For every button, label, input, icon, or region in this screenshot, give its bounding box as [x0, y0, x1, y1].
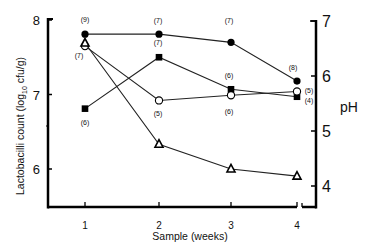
filled-circle-marker	[227, 39, 234, 46]
n-count-label: (6)	[225, 108, 234, 116]
y2-tick-label: 6	[322, 68, 331, 85]
open-triangle-marker	[227, 164, 235, 172]
filled-square-marker	[82, 105, 89, 112]
y-tick-label: 7	[33, 88, 40, 103]
n-count-label: (7)	[154, 39, 163, 47]
n-count-label: (6)	[81, 119, 90, 127]
n-count-label: (7)	[75, 52, 84, 60]
y-axis-label: Lactobacilli count (log10 cfu/g)	[14, 57, 28, 195]
plot-layer: 67812344567Lactobacilli count (log10 cfu…	[14, 13, 358, 242]
filled-circle-marker	[155, 31, 162, 38]
chart: 67812344567Lactobacilli count (log10 cfu…	[0, 0, 376, 251]
n-count-label: (6)	[225, 72, 234, 80]
open-circle-marker	[155, 97, 162, 104]
filled-circle-marker	[81, 31, 88, 38]
n-count-label: (4)	[305, 97, 314, 105]
open-circle-marker	[227, 92, 234, 99]
series-line-filled-square	[85, 57, 297, 108]
open-triangle-marker	[293, 172, 301, 180]
n-count-label: (5)	[154, 110, 163, 118]
x-tick-label: 1	[82, 220, 88, 231]
x-tick-label: 3	[228, 220, 234, 231]
y2-tick-label: 5	[322, 123, 331, 140]
x-tick-label: 4	[294, 220, 300, 231]
y2-tick-label: 4	[322, 178, 331, 195]
series-line-open-circle	[85, 46, 297, 100]
y-tick-label: 6	[33, 162, 40, 177]
n-count-label: (5)	[305, 87, 314, 95]
y2-axis-label: pH	[340, 99, 358, 115]
open-triangle-marker	[81, 39, 89, 47]
n-count-label: (8)	[289, 64, 298, 72]
series-line-filled-circle	[85, 34, 297, 81]
n-count-label: (7)	[154, 17, 163, 25]
y2-tick-label: 7	[322, 13, 331, 30]
x-axis-label: Sample (weeks)	[152, 230, 227, 242]
filled-square-marker	[156, 54, 163, 61]
filled-circle-marker	[293, 77, 300, 84]
n-count-label: (7)	[225, 17, 234, 25]
open-circle-marker	[293, 88, 300, 95]
y-tick-label: 8	[33, 13, 40, 28]
n-count-label: (9)	[81, 16, 90, 24]
